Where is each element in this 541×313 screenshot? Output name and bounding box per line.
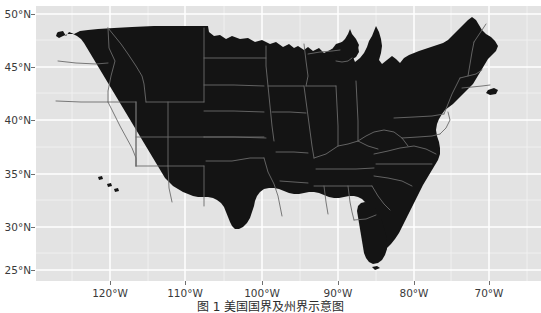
- map-svg: [36, 6, 541, 281]
- x-axis-tick-label: 120°W: [92, 288, 128, 299]
- x-axis-tick-label: 80°W: [400, 288, 429, 299]
- x-axis-tick-mark: [262, 281, 263, 285]
- usa-landmass: [56, 17, 498, 270]
- x-axis-tick-label: 110°W: [167, 288, 203, 299]
- x-axis-tick-mark: [489, 281, 490, 285]
- x-axis-tick-mark: [338, 281, 339, 285]
- x-axis-tick-label: 70°W: [475, 288, 504, 299]
- x-axis-tick-mark: [185, 281, 186, 285]
- x-axis-tick-label: 100°W: [244, 288, 280, 299]
- x-axis-tick-label: 90°W: [324, 288, 353, 299]
- map-panel: [36, 6, 541, 281]
- x-axis-tick-mark: [414, 281, 415, 285]
- figure-root: 50°N 45°N 40°N 35°N 30°N 25°N 120°W 110°…: [0, 0, 541, 313]
- figure-caption: 图 1 美国国界及州界示意图: [0, 301, 541, 313]
- x-axis-tick-mark: [110, 281, 111, 285]
